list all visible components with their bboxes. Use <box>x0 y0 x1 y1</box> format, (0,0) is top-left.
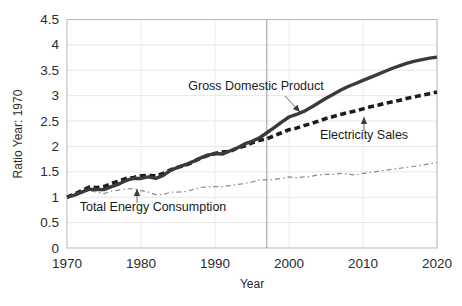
x-tick-label: 2010 <box>348 256 378 271</box>
chart-figure: 00.511.522.533.544.5 1970198019902000201… <box>0 0 462 306</box>
annotation-label-total-energy-consumption: Total Energy Consumption <box>80 200 227 214</box>
y-tick-label: 1 <box>51 190 59 205</box>
annotation-label-electricity-sales: Electricity Sales <box>320 128 408 142</box>
y-tick-label: 2 <box>51 139 59 154</box>
x-tick-label: 2020 <box>422 256 452 271</box>
y-tick-label: 4 <box>51 37 59 52</box>
y-tick-label: 0 <box>51 241 59 256</box>
y-tick-label: 3 <box>51 88 59 103</box>
y-tick-label: 3.5 <box>40 63 59 78</box>
x-tick-label: 1980 <box>126 256 156 271</box>
annotation-label-gross-domestic-product: Gross Domestic Product <box>188 79 324 93</box>
x-tick-label: 2000 <box>274 256 304 271</box>
y-tick-label: 1.5 <box>40 164 59 179</box>
y-axis-label: Ratio Year: 1970 <box>11 89 25 178</box>
x-tick-label: 1970 <box>52 256 82 271</box>
chart-canvas: 00.511.522.533.544.5 1970198019902000201… <box>0 0 462 306</box>
x-tick-label: 1990 <box>200 256 230 271</box>
y-tick-label: 4.5 <box>40 12 59 27</box>
y-tick-label: 0.5 <box>40 215 59 230</box>
y-tick-label: 2.5 <box>40 114 59 129</box>
x-axis-label: Year <box>240 277 264 291</box>
